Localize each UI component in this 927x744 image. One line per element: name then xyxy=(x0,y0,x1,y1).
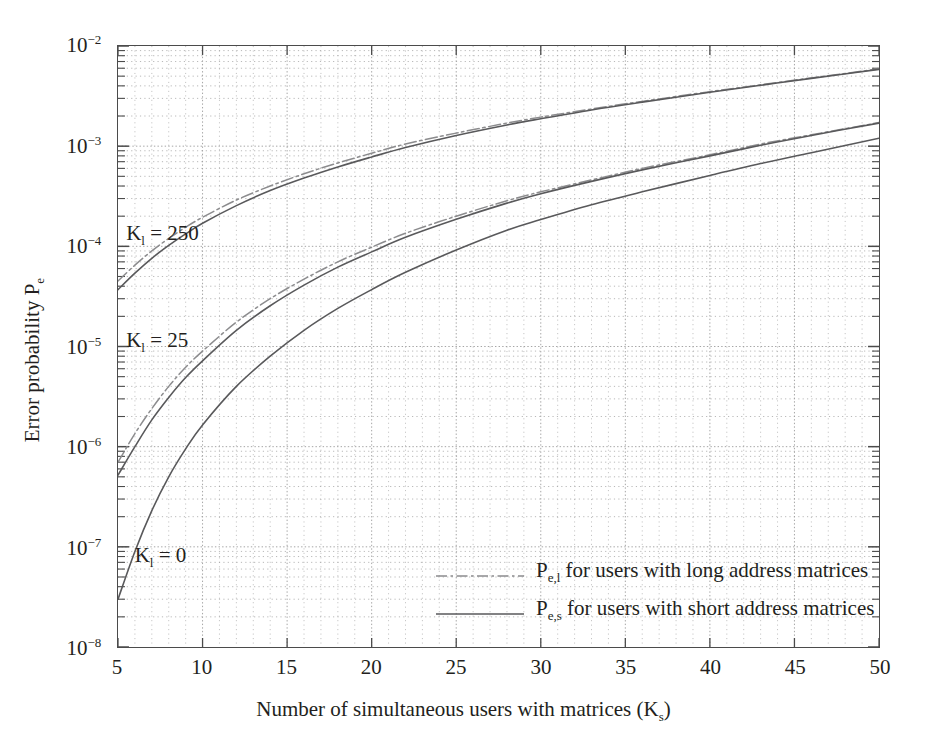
y-axis-tick-labels: 10−210−310−410−510−610−710−8 xyxy=(0,0,117,744)
legend-label-long-symbol: P xyxy=(536,558,548,582)
y-axis-tick-label: 10−2 xyxy=(67,32,101,58)
plot-area: Kl = 250 Kl = 25 Kl = 0 Pe,l for users w… xyxy=(117,45,880,648)
legend-label-short-subscript: e,s xyxy=(548,608,562,623)
legend-label-short-text: for users with short address matrices xyxy=(562,596,875,620)
legend-label-long-subscript: e,l xyxy=(548,570,561,585)
y-axis-tick-label: 10−5 xyxy=(67,334,101,360)
x-axis-tick-label: 5 xyxy=(112,655,123,680)
legend-label-short: Pe,s for users with short address matric… xyxy=(536,596,874,624)
annotation-kl-0: Kl = 0 xyxy=(135,543,187,571)
x-axis-tick-label: 35 xyxy=(615,655,636,680)
annotation-kl-0-value: = 0 xyxy=(153,543,186,567)
annotation-kl-25: Kl = 25 xyxy=(126,328,188,356)
legend: Pe,l for users with long address matrice… xyxy=(436,558,880,634)
y-axis-tick-label: 10−8 xyxy=(67,635,101,661)
annotation-kl-0-symbol: K xyxy=(135,543,150,567)
series-line xyxy=(118,69,879,289)
annotation-kl-25-value: = 25 xyxy=(145,328,188,352)
legend-item-long: Pe,l for users with long address matrice… xyxy=(436,558,880,596)
x-axis-tick-label: 30 xyxy=(530,655,551,680)
x-axis-tick-label: 45 xyxy=(785,655,806,680)
y-axis-tick-label: 10−7 xyxy=(67,535,101,561)
curve-layer xyxy=(118,46,879,647)
y-axis-title-subscript: e xyxy=(32,278,47,284)
annotation-kl-250: Kl = 250 xyxy=(126,221,199,249)
x-axis-tick-label: 50 xyxy=(870,655,891,680)
x-axis-tick-label: 25 xyxy=(446,655,467,680)
annotation-kl-250-value: = 250 xyxy=(145,221,199,245)
y-axis-title-text: Error probability P xyxy=(20,284,44,443)
legend-swatch-solid xyxy=(436,613,524,615)
x-axis-tick-label: 20 xyxy=(361,655,382,680)
y-axis-tick-label: 10−6 xyxy=(67,434,101,460)
legend-item-short: Pe,s for users with short address matric… xyxy=(436,596,880,634)
x-axis-tick-label: 15 xyxy=(276,655,297,680)
x-axis-tick-label: 10 xyxy=(191,655,212,680)
x-axis-title: Number of simultaneous users with matric… xyxy=(0,697,927,725)
x-axis-tick-label: 40 xyxy=(700,655,721,680)
annotation-kl-25-symbol: K xyxy=(126,328,141,352)
annotation-kl-250-symbol: K xyxy=(126,221,141,245)
x-axis-title-text: Number of simultaneous users with matric… xyxy=(256,697,658,721)
series-line xyxy=(118,69,879,281)
y-axis-tick-label: 10−3 xyxy=(67,133,101,159)
series-line xyxy=(118,123,879,475)
chart-figure: 10−210−310−410−510−610−710−8 Error proba… xyxy=(0,0,927,744)
x-axis-title-tail: ) xyxy=(664,697,671,721)
legend-swatch-dash-dot xyxy=(436,575,524,577)
y-axis-tick-label: 10−4 xyxy=(67,233,101,259)
legend-label-long-text: for users with long address matrices xyxy=(560,558,868,582)
legend-label-short-symbol: P xyxy=(536,596,548,620)
y-axis-title: Error probability Pe xyxy=(20,150,48,570)
series-line xyxy=(118,123,879,463)
legend-label-long: Pe,l for users with long address matrice… xyxy=(536,558,868,586)
